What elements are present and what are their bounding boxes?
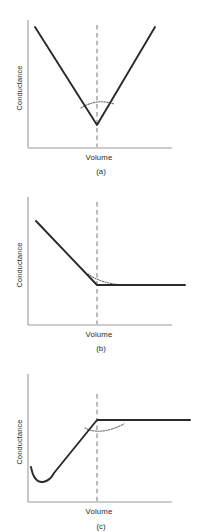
conductometric-titration-figure: Conductance Volume (a) Conductance Volum… [0, 0, 205, 532]
chart-panel-c: Conductance Volume (c) [0, 354, 205, 532]
chart-svg-c: Conductance Volume (c) [0, 354, 205, 532]
chart-svg-a: Conductance Volume [0, 0, 205, 177]
y-axis-label-c: Conductance [15, 419, 24, 464]
data-line-a [35, 27, 155, 125]
chart-panel-a: Conductance Volume (a) [0, 0, 205, 177]
data-line-b [36, 221, 185, 285]
y-axis-label-a: Conductance [15, 65, 24, 110]
panel-caption-c: (c) [96, 522, 105, 531]
panel-caption-b: (b) [96, 344, 106, 353]
chart-svg-b: Conductance Volume (b) [0, 177, 205, 354]
x-axis-label-a: Volume [86, 153, 113, 162]
x-axis-label-c: Volume [86, 507, 113, 516]
data-line-c [31, 420, 190, 482]
y-axis-label-b: Conductance [15, 242, 24, 287]
chart-panel-b: Conductance Volume (b) [0, 177, 205, 354]
x-axis-label-b: Volume [86, 330, 113, 339]
dotted-curvature-b [88, 274, 122, 285]
